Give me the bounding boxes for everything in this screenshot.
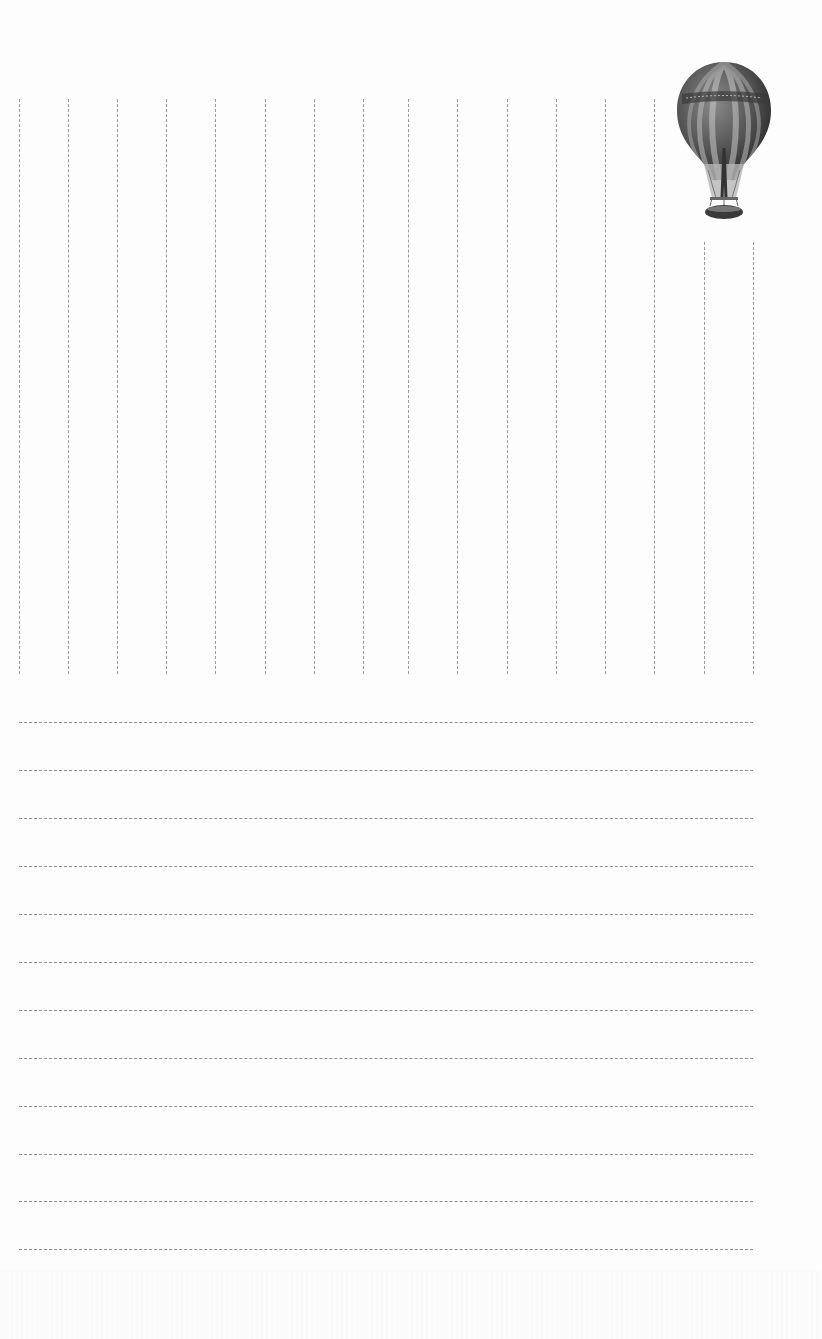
horizontal-ruled-line [19, 1058, 753, 1059]
vertical-ruled-line [314, 99, 315, 674]
vertical-ruled-line [654, 99, 655, 674]
vertical-ruled-line [363, 99, 364, 674]
horizontal-ruled-line [19, 1010, 753, 1011]
vertical-ruled-line [408, 99, 409, 674]
horizontal-ruled-line [19, 962, 753, 963]
vertical-ruled-line [507, 99, 508, 674]
vertical-ruled-line [605, 99, 606, 674]
vertical-ruled-line [215, 99, 216, 674]
vertical-ruled-line [556, 99, 557, 674]
vertical-ruled-line [753, 242, 754, 674]
paper-texture [0, 1270, 822, 1339]
horizontal-ruled-line [19, 1249, 753, 1250]
horizontal-ruled-line [19, 866, 753, 867]
vertical-ruled-line [166, 99, 167, 674]
vertical-ruled-line [68, 99, 69, 674]
vertical-ruled-line [265, 99, 266, 674]
vertical-ruled-line [704, 242, 705, 674]
horizontal-ruled-line [19, 770, 753, 771]
vertical-ruled-line [457, 99, 458, 674]
horizontal-ruled-line [19, 1154, 753, 1155]
horizontal-ruled-line [19, 914, 753, 915]
vertical-ruled-line [117, 99, 118, 674]
horizontal-ruled-line [19, 1106, 753, 1107]
hot-air-balloon-icon [672, 58, 776, 224]
vertical-ruled-line [19, 99, 20, 674]
horizontal-ruled-line [19, 818, 753, 819]
horizontal-ruled-line [19, 722, 753, 723]
horizontal-ruled-line [19, 1201, 753, 1202]
